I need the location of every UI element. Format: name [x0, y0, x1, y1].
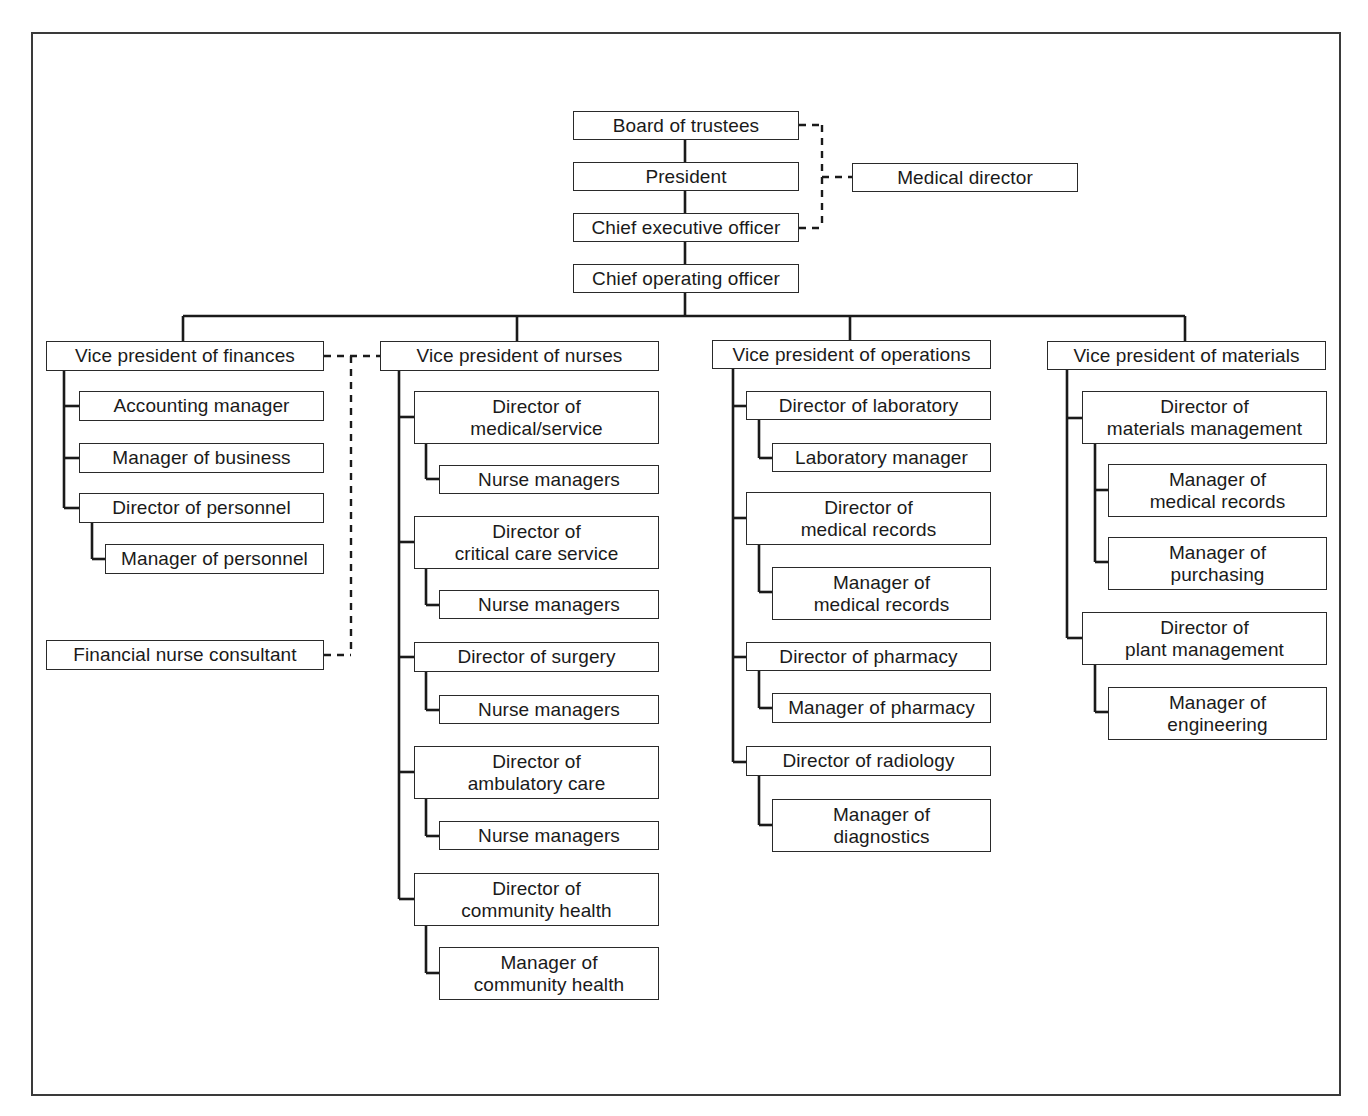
node-director-plant-management: Director of plant management	[1082, 612, 1327, 665]
node-manager-of-personnel: Manager of personnel	[105, 544, 324, 574]
node-vp-finances: Vice president of finances	[46, 341, 324, 371]
node-director-of-personnel: Director of personnel	[79, 493, 324, 523]
node-director-pharmacy: Director of pharmacy	[746, 642, 991, 671]
node-vp-operations: Vice president of operations	[712, 340, 991, 369]
node-laboratory-manager: Laboratory manager	[772, 443, 991, 472]
node-manager-medical-records-mat: Manager of medical records	[1108, 464, 1327, 517]
node-nurse-managers-2: Nurse managers	[439, 590, 659, 619]
node-nurse-managers-4: Nurse managers	[439, 821, 659, 850]
node-director-medical-service: Director of medical/service	[414, 391, 659, 444]
node-manager-pharmacy: Manager of pharmacy	[772, 693, 991, 723]
node-manager-diagnostics: Manager of diagnostics	[772, 799, 991, 852]
node-director-laboratory: Director of laboratory	[746, 391, 991, 420]
node-vp-nurses: Vice president of nurses	[380, 341, 659, 371]
node-manager-community-health: Manager of community health	[439, 947, 659, 1000]
node-nurse-managers-1: Nurse managers	[439, 465, 659, 494]
node-director-medical-records: Director of medical records	[746, 492, 991, 545]
node-medical-director: Medical director	[852, 163, 1078, 192]
node-manager-of-business: Manager of business	[79, 443, 324, 473]
node-financial-nurse-consultant: Financial nurse consultant	[46, 640, 324, 670]
node-chief-executive-officer: Chief executive officer	[573, 213, 799, 242]
node-director-critical-care: Director of critical care service	[414, 516, 659, 569]
node-director-community-health: Director of community health	[414, 873, 659, 926]
node-chief-operating-officer: Chief operating officer	[573, 264, 799, 293]
node-manager-engineering: Manager of engineering	[1108, 687, 1327, 740]
node-nurse-managers-3: Nurse managers	[439, 695, 659, 724]
node-board-of-trustees: Board of trustees	[573, 111, 799, 140]
node-president: President	[573, 162, 799, 191]
node-vp-materials: Vice president of materials	[1047, 341, 1326, 370]
node-director-materials-management: Director of materials management	[1082, 391, 1327, 444]
node-director-of-surgery: Director of surgery	[414, 642, 659, 672]
node-manager-purchasing: Manager of purchasing	[1108, 537, 1327, 590]
node-director-radiology: Director of radiology	[746, 746, 991, 776]
node-manager-medical-records-ops: Manager of medical records	[772, 567, 991, 620]
node-director-ambulatory-care: Director of ambulatory care	[414, 746, 659, 799]
node-accounting-manager: Accounting manager	[79, 391, 324, 421]
